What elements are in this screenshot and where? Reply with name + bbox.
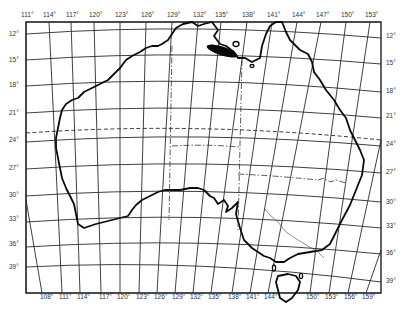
lon-label: 129° <box>167 11 181 18</box>
lat-label: 39° <box>9 263 19 270</box>
lon-label: 150° <box>341 11 355 18</box>
lat-label: 39° <box>386 277 396 284</box>
lat-label: 30° <box>386 198 396 205</box>
island <box>233 42 239 47</box>
lon-label: 120° <box>89 11 103 18</box>
lat-label: 27° <box>9 164 19 171</box>
map-canvas: 111° 114° 117° 120° 123° 126° 129° 132° … <box>0 0 404 313</box>
lon-label: 138° <box>242 11 256 18</box>
lon-label: 123° <box>136 293 150 300</box>
lon-label: 150° <box>306 293 320 300</box>
lon-label: 159° <box>362 293 376 300</box>
lon-label: 108° <box>40 293 54 300</box>
lat-label: 33° <box>9 215 19 222</box>
lat-label: 15° <box>9 56 19 63</box>
lon-label: 156° <box>344 293 358 300</box>
lon-label: 117° <box>99 293 112 300</box>
lon-label: 120° <box>117 293 131 300</box>
lon-label: 126° <box>154 293 168 300</box>
lon-label: 153° <box>325 293 339 300</box>
lat-label: 24° <box>386 140 396 147</box>
lat-label: 36° <box>386 249 396 256</box>
lon-label: 144° <box>264 293 278 300</box>
lon-label: 144° <box>292 11 306 18</box>
lon-label: 141° <box>267 11 281 18</box>
lat-label: 18° <box>9 81 19 88</box>
lon-label: 135° <box>215 11 229 18</box>
lon-label: 129° <box>172 293 186 300</box>
island <box>299 273 302 278</box>
lon-label: 141° <box>246 293 260 300</box>
lat-label: 27° <box>386 168 396 175</box>
lat-label: 30° <box>9 191 19 198</box>
lon-label: 153° <box>365 11 379 18</box>
map-figure: 111° 114° 117° 120° 123° 126° 129° 132° … <box>0 0 404 313</box>
lat-label: 21° <box>9 109 19 116</box>
lon-label: 111° <box>59 293 72 300</box>
island <box>250 65 254 68</box>
lat-label: 15° <box>386 59 396 66</box>
lon-label: 111° <box>21 11 34 18</box>
lon-label: 117° <box>66 11 79 18</box>
lon-label: 132° <box>190 293 204 300</box>
lat-label: 33° <box>386 222 396 229</box>
island <box>272 265 275 271</box>
lon-label: 147° <box>316 11 330 18</box>
lon-label: 132° <box>193 11 207 18</box>
lat-label: 21° <box>386 112 396 119</box>
lat-label: 36° <box>9 240 19 247</box>
lat-label: 12° <box>9 30 19 37</box>
lon-label: 126° <box>141 11 155 18</box>
lon-label: 114° <box>43 11 56 18</box>
lat-label: 24° <box>9 136 19 143</box>
lon-label: 123° <box>115 11 129 18</box>
lon-label: 135° <box>208 293 222 300</box>
top-longitude-labels: 111° 114° 117° 120° 123° 126° 129° 132° … <box>21 11 379 18</box>
lat-label: 12° <box>386 32 396 39</box>
lon-label: 114° <box>77 293 90 300</box>
lon-label: 138° <box>228 293 242 300</box>
lat-label: 18° <box>386 87 396 94</box>
